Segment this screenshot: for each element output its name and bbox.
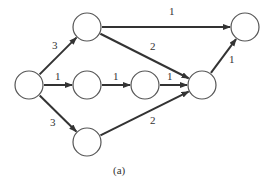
- edge-weight-label: 2: [150, 40, 156, 52]
- edge-weight-label: 1: [229, 53, 235, 65]
- edge-weight-label: 2: [150, 114, 156, 126]
- edge-weight-label: 3: [50, 116, 56, 128]
- graph-node: [188, 71, 216, 99]
- network-diagram: 313121121 (a): [0, 0, 266, 182]
- edge-weight-label: 1: [55, 70, 61, 82]
- graph-node: [73, 13, 101, 41]
- graph-node: [73, 71, 101, 99]
- edge-arrow: [40, 38, 77, 75]
- edge-weight-label: 1: [113, 70, 119, 82]
- graph-node: [73, 128, 101, 156]
- edge-weight-label: 1: [167, 70, 173, 82]
- edge-weight-label: 3: [52, 39, 58, 51]
- graph-node: [131, 71, 159, 99]
- edge-weight-label: 1: [169, 5, 175, 17]
- edge-arrow: [40, 96, 77, 132]
- graph-node: [231, 13, 259, 41]
- graph-node: [15, 71, 43, 99]
- figure-caption: (a): [113, 164, 126, 177]
